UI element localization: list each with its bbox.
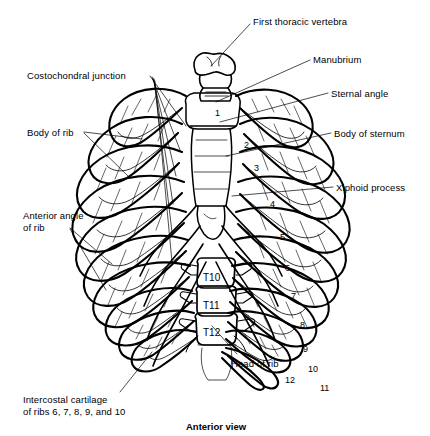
label-costochondral-junction: Costochondral junction [27, 70, 126, 82]
rib-number-8: 8 [300, 320, 305, 330]
rib-number-2: 2 [244, 140, 249, 150]
vertebra-label-t11: T11 [203, 300, 220, 311]
rib-number-6: 6 [285, 263, 290, 273]
rib-number-3: 3 [254, 163, 259, 173]
vertebra-label-t12: T12 [203, 327, 220, 338]
rib-number-4: 4 [270, 199, 275, 209]
label-first-thoracic-vertebra: First thoracic vertebra [253, 16, 347, 28]
rib-number-1: 1 [215, 108, 220, 118]
sternum-shape [185, 93, 240, 239]
label-sternal-angle: Sternal angle [331, 88, 388, 100]
vertebra-label-t10: T10 [203, 272, 220, 283]
ribs-left-hatching [93, 96, 177, 356]
rib-number-11: 11 [320, 383, 329, 393]
label-xiphoid-process: Xiphoid process [336, 182, 405, 194]
rib-number-10: 10 [308, 364, 318, 374]
anatomical-figure: First thoracic vertebra Manubrium Sterna… [0, 0, 430, 436]
rib-number-5: 5 [280, 232, 285, 242]
label-manubrium: Manubrium [313, 54, 361, 66]
rib-number-7: 7 [291, 291, 296, 301]
first-thoracic-vertebra-shape [194, 53, 235, 101]
rib-number-9: 9 [303, 344, 308, 354]
label-anterior-angle-of-rib: Anterior angle of rib [23, 210, 84, 233]
label-body-of-sternum: Body of sternum [334, 128, 405, 140]
figure-caption: Anterior view [186, 421, 246, 432]
label-head-of-rib: Head of rib [231, 358, 279, 370]
ribs-right [222, 90, 350, 390]
label-body-of-rib: Body of rib [27, 127, 74, 139]
ribs-right-hatching [245, 96, 329, 356]
rib-number-12: 12 [285, 375, 295, 385]
label-intercostal-cartilage: Intercostal cartilage of ribs 6, 7, 8, 9… [23, 394, 125, 417]
